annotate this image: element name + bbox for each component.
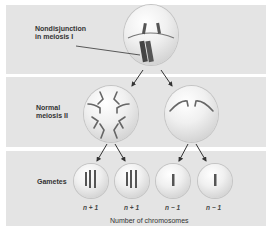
- gamete-4-count: n − 1: [206, 204, 221, 211]
- gamete-2-count: n + 1: [124, 204, 139, 211]
- diagram-graphics: [0, 0, 273, 233]
- label-pointer: [76, 46, 140, 55]
- caption-number-of-chromosomes: Number of chromosomes: [110, 217, 189, 224]
- parent-chromosomes: [139, 23, 161, 62]
- gamete-1-count: n + 1: [83, 204, 98, 211]
- gamete-3-count: n − 1: [165, 204, 180, 211]
